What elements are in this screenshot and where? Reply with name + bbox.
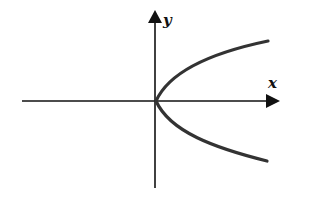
parabola-figure: x y — [0, 0, 312, 204]
x-axis-arrow-icon — [266, 94, 280, 108]
y-axis-arrow-icon — [148, 10, 162, 23]
y-axis-label: y — [162, 11, 173, 29]
x-axis-label: x — [267, 74, 278, 92]
